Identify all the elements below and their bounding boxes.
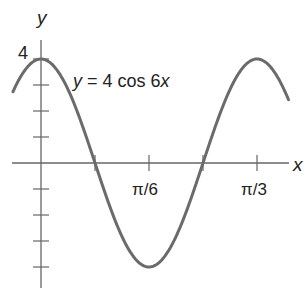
equation-annotation: y = 4 cos 6x — [71, 71, 171, 91]
y-axis-label: y — [35, 7, 48, 28]
x-tick-label-pi-6: π/6 — [132, 180, 158, 199]
x-axis-label: x — [292, 154, 304, 175]
x-tick-label-pi-3: π/3 — [241, 180, 267, 199]
cosine-graph: y x 4 π/6 π/3 y = 4 cos 6x — [0, 0, 304, 290]
y-tick-label-4: 4 — [18, 43, 28, 63]
